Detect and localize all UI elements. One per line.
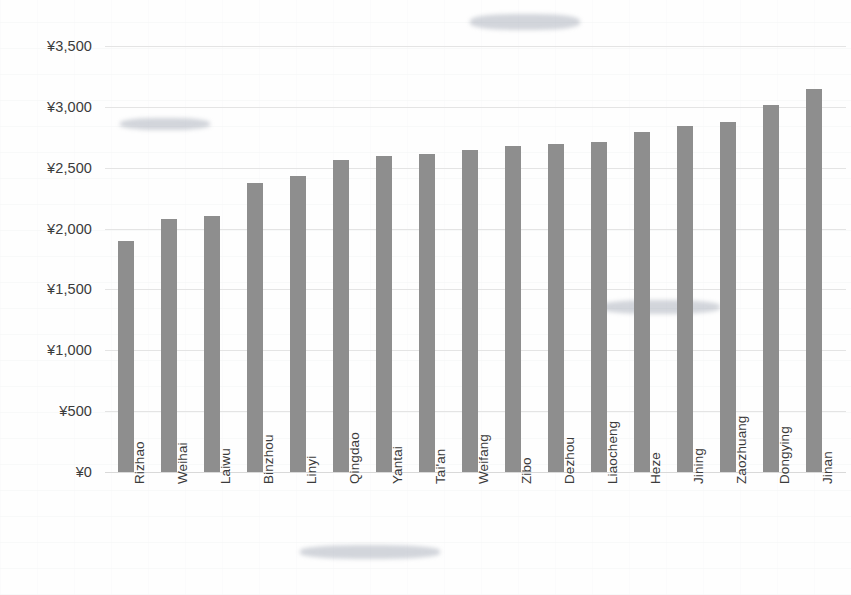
x-tick-label: Linyi	[304, 456, 319, 484]
x-tick-label: Qingdao	[347, 432, 362, 484]
y-tick-label: ¥2,500	[47, 160, 92, 176]
bars-layer: RizhaoWeihaiLaiwuBinzhouLinyiQingdaoYant…	[105, 0, 851, 595]
bar[interactable]	[419, 154, 435, 472]
x-tick-label: Jinan	[820, 451, 835, 484]
bar[interactable]	[634, 132, 650, 472]
x-tick-label: Zibo	[519, 457, 534, 484]
x-tick-label: Zaozhuang	[734, 416, 749, 484]
x-tick-label: Dezhou	[562, 437, 577, 484]
bar[interactable]	[677, 126, 693, 472]
y-tick-label: ¥2,000	[47, 221, 92, 237]
x-tick-label: Tai'an	[433, 449, 448, 484]
x-tick-label: Rizhao	[132, 441, 147, 484]
bar[interactable]	[462, 150, 478, 472]
y-tick-label: ¥3,500	[47, 38, 92, 54]
bar[interactable]	[505, 146, 521, 472]
x-tick-label: Heze	[648, 452, 663, 484]
x-tick-label: Jining	[691, 448, 706, 484]
y-axis: ¥3,500¥3,000¥2,500¥2,000¥1,500¥1,000¥500…	[0, 0, 100, 595]
bar[interactable]	[118, 241, 134, 472]
bar[interactable]	[806, 89, 822, 472]
bar[interactable]	[763, 105, 779, 472]
bar[interactable]	[161, 219, 177, 472]
bar[interactable]	[333, 160, 349, 472]
bar[interactable]	[204, 216, 220, 472]
x-tick-label: Yantai	[390, 446, 405, 484]
x-tick-label: Liaocheng	[605, 421, 620, 484]
y-tick-label: ¥1,500	[47, 281, 92, 297]
bar[interactable]	[376, 156, 392, 472]
x-tick-label: Weifang	[476, 434, 491, 484]
y-tick-label: ¥0	[76, 464, 92, 480]
y-tick-label: ¥1,000	[47, 342, 92, 358]
bar[interactable]	[247, 183, 263, 472]
y-tick-label: ¥500	[59, 403, 92, 419]
bar[interactable]	[290, 176, 306, 472]
bar[interactable]	[548, 144, 564, 472]
bar-chart: ¥3,500¥3,000¥2,500¥2,000¥1,500¥1,000¥500…	[0, 0, 851, 595]
x-tick-label: Binzhou	[261, 435, 276, 485]
x-tick-label: Weihai	[175, 442, 190, 484]
y-tick-label: ¥3,000	[47, 99, 92, 115]
x-tick-label: Laiwu	[218, 448, 233, 484]
x-tick-label: Dongying	[777, 426, 792, 484]
